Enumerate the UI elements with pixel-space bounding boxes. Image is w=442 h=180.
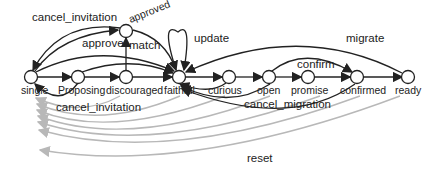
edge-label-match: match: [129, 40, 160, 52]
node-open: [263, 71, 276, 84]
edge-label-approve: approve: [82, 38, 124, 50]
edge-label-cancel-invitation-top: cancel_invitation: [32, 12, 117, 24]
state-label-confirmed: confirmed: [340, 85, 386, 96]
edge-label-reset: reset: [247, 153, 273, 165]
state-label-proposing: Proposing: [58, 85, 105, 96]
node-ready: [402, 71, 415, 84]
node-proposing: [72, 71, 85, 84]
edge-label-migrate: migrate: [346, 33, 384, 45]
node-promise: [302, 71, 315, 84]
edge-label-cancel-invitation-bottom: cancel_invitation: [56, 102, 141, 114]
node-approved: [120, 25, 133, 38]
node-curious: [223, 71, 236, 84]
node-single: [25, 71, 38, 84]
state-label-open: open: [257, 85, 280, 96]
edge-label-confirm: confirm: [297, 59, 335, 71]
edge-label-cancel-migration: cancel_migration: [244, 99, 331, 111]
state-label-ready: ready: [395, 85, 421, 96]
state-label-discouraged: discouraged: [106, 85, 163, 96]
node-discouraged: [120, 71, 133, 84]
state-label-single: single: [21, 85, 48, 96]
state-label-curious: curious: [208, 85, 242, 96]
node-confirmed: [351, 71, 364, 84]
edge-label-update: update: [194, 33, 229, 45]
state-label-faithful: faithful: [164, 85, 195, 96]
state-label-promise: promise: [291, 85, 328, 96]
node-faithful: [173, 71, 186, 84]
